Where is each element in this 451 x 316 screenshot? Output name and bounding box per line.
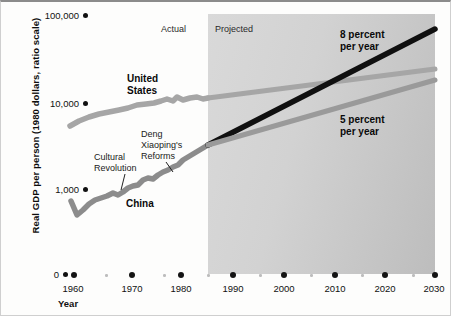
annotation-deng-reforms-line2: Xiaoping's bbox=[141, 140, 182, 151]
line-projection-8-percent bbox=[208, 29, 435, 145]
x-tick-dot-1980 bbox=[178, 272, 184, 278]
series-label-8-percent: 8 percent per year bbox=[340, 29, 384, 52]
x-tick-label-2000: 2000 bbox=[262, 283, 306, 294]
x-tick-label-2010: 2010 bbox=[313, 283, 357, 294]
x-tick-label-2020: 2020 bbox=[363, 283, 407, 294]
x-tick-dot-1965 bbox=[105, 274, 108, 277]
x-tick-dot-1985 bbox=[207, 274, 210, 277]
x-tick-dot-2030 bbox=[432, 272, 438, 278]
annotation-deng-reforms-line3: Reforms bbox=[141, 151, 182, 162]
annotation-cultural-revolution-line1: Cultural bbox=[94, 152, 137, 163]
x-tick-label-2030: 2030 bbox=[412, 283, 451, 294]
x-tick-dot-2010 bbox=[332, 272, 338, 278]
annotation-cultural-revolution: Cultural Revolution bbox=[94, 152, 137, 174]
x-tick-dot-2020 bbox=[382, 272, 388, 278]
x-tick-dot-2005 bbox=[310, 274, 313, 277]
x-tick-dot-2025 bbox=[412, 274, 415, 277]
series-label-5-percent-line2: per year bbox=[340, 126, 384, 138]
x-tick-label-1990: 1990 bbox=[211, 283, 255, 294]
x-tick-dot-1995 bbox=[259, 274, 262, 277]
x-tick-label-1980: 1980 bbox=[159, 283, 203, 294]
series-label-8-percent-line2: per year bbox=[340, 41, 384, 53]
x-tick-dot-2015 bbox=[361, 274, 364, 277]
x-axis-title: Year bbox=[58, 298, 78, 309]
x-tick-label-1960: 1960 bbox=[51, 283, 95, 294]
x-tick-dot-1990 bbox=[230, 272, 236, 278]
chart-figure: Real GDP per person (1980 dollars, ratio… bbox=[0, 0, 451, 316]
annotation-deng-reforms-line1: Deng bbox=[141, 129, 182, 140]
x-tick-label-1970: 1970 bbox=[110, 283, 154, 294]
annotation-cultural-revolution-line2: Revolution bbox=[94, 163, 137, 174]
series-label-united-states: United States bbox=[127, 73, 158, 96]
line-united-states-actual bbox=[70, 97, 208, 126]
line-united-states-projected bbox=[208, 69, 435, 98]
series-label-united-states-line1: United bbox=[127, 73, 158, 85]
series-label-united-states-line2: States bbox=[127, 85, 158, 97]
series-label-china: China bbox=[126, 198, 154, 210]
series-label-5-percent-line1: 5 percent bbox=[340, 114, 384, 126]
x-tick-dot-1960 bbox=[71, 272, 77, 278]
annotation-deng-reforms: Deng Xiaoping's Reforms bbox=[141, 129, 182, 162]
series-label-8-percent-line1: 8 percent bbox=[340, 29, 384, 41]
x-tick-dot-1970 bbox=[129, 272, 135, 278]
x-tick-dot-2000 bbox=[281, 272, 287, 278]
x-tick-dot-1975 bbox=[163, 274, 166, 277]
series-label-5-percent: 5 percent per year bbox=[340, 114, 384, 137]
